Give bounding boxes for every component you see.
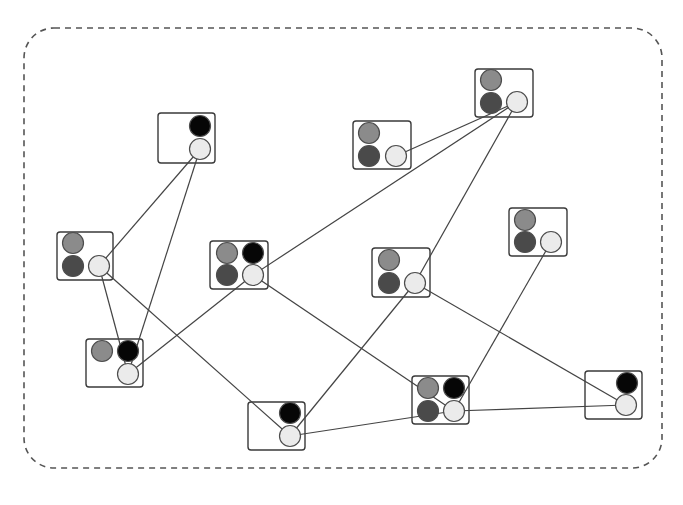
light-circle-icon bbox=[190, 139, 211, 160]
black-circle-icon bbox=[190, 116, 211, 137]
gray-circle-icon bbox=[481, 70, 502, 91]
black-circle-icon bbox=[243, 243, 264, 264]
edge-g-h bbox=[415, 102, 517, 283]
gray-circle-icon bbox=[418, 378, 439, 399]
light-circle-icon bbox=[616, 395, 637, 416]
light-circle-icon bbox=[243, 265, 264, 286]
gray-circle-icon bbox=[217, 243, 238, 264]
edge-h-e bbox=[290, 283, 415, 436]
dark-circle-icon bbox=[418, 401, 439, 422]
light-circle-icon bbox=[541, 232, 562, 253]
edge-a-b bbox=[99, 149, 200, 266]
black-circle-icon bbox=[444, 378, 465, 399]
light-circle-icon bbox=[386, 146, 407, 167]
light-circle-icon bbox=[280, 426, 301, 447]
network-diagram bbox=[0, 0, 683, 505]
black-circle-icon bbox=[118, 341, 139, 362]
light-circle-icon bbox=[89, 256, 110, 277]
gray-circle-icon bbox=[359, 123, 380, 144]
black-circle-icon bbox=[617, 373, 638, 394]
gray-circle-icon bbox=[379, 250, 400, 271]
dark-circle-icon bbox=[359, 146, 380, 167]
light-circle-icon bbox=[118, 364, 139, 385]
light-circle-icon bbox=[405, 273, 426, 294]
gray-circle-icon bbox=[92, 341, 113, 362]
dark-circle-icon bbox=[481, 93, 502, 114]
nodes-layer bbox=[63, 70, 638, 447]
dark-circle-icon bbox=[217, 265, 238, 286]
gray-circle-icon bbox=[63, 233, 84, 254]
edge-a-c bbox=[128, 149, 200, 374]
edge-i-j bbox=[454, 242, 551, 411]
dark-circle-icon bbox=[379, 273, 400, 294]
dark-circle-icon bbox=[63, 256, 84, 277]
node-boxes bbox=[57, 69, 642, 450]
light-circle-icon bbox=[444, 401, 465, 422]
light-circle-icon bbox=[507, 92, 528, 113]
dark-circle-icon bbox=[515, 232, 536, 253]
edge-c-d bbox=[128, 275, 253, 374]
black-circle-icon bbox=[280, 403, 301, 424]
gray-circle-icon bbox=[515, 210, 536, 231]
